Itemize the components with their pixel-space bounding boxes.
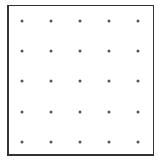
grid-dot [21,80,24,83]
grid-dot [50,50,53,53]
grid-dot [137,80,140,83]
grid-dot [108,141,111,144]
grid-dot [21,50,24,53]
grid-dot [108,80,111,83]
grid-dot [50,20,53,23]
grid-dot [79,20,82,23]
grid-dot [50,80,53,83]
grid-dot [137,111,140,114]
grid-dot [50,141,53,144]
grid-dot [50,111,53,114]
grid-dot [108,20,111,23]
grid-dot [79,141,82,144]
grid-dot [21,141,24,144]
grid-dot [137,50,140,53]
grid-dot [79,50,82,53]
grid-dot [137,20,140,23]
grid-dot [108,50,111,53]
grid-dot [79,111,82,114]
grid-dot [21,20,24,23]
grid-dot [79,80,82,83]
grid-dot [108,111,111,114]
grid-dot [137,141,140,144]
grid-dot [21,111,24,114]
